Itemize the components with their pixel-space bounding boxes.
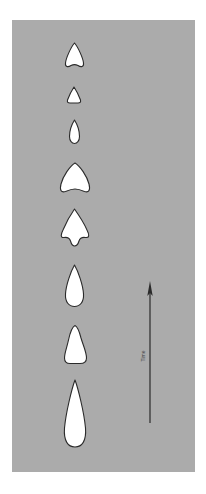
- gray-panel: [12, 20, 195, 472]
- time-label: Time: [140, 350, 146, 361]
- diagram-canvas: Time: [0, 0, 206, 494]
